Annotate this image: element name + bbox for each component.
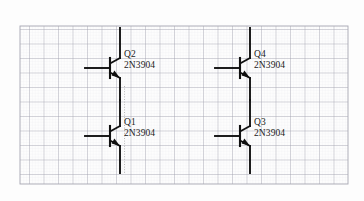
label-q1: Q1 2N3904 [124, 117, 155, 138]
label-q2-ref: Q2 [124, 49, 155, 60]
label-q3: Q3 2N3904 [254, 117, 285, 138]
label-q3-ref: Q3 [254, 117, 285, 128]
transistor-q3[interactable] [215, 100, 250, 173]
transistor-q1[interactable] [85, 100, 120, 173]
label-q4-ref: Q4 [254, 49, 285, 60]
q2-emitter-arrow [112, 70, 120, 78]
q3-emitter-arrow [242, 138, 250, 146]
label-q2-part: 2N3904 [124, 60, 155, 71]
label-q4-part: 2N3904 [254, 60, 285, 71]
label-q1-ref: Q1 [124, 117, 155, 128]
circuit-layer [0, 0, 364, 201]
label-q1-part: 2N3904 [124, 128, 155, 139]
q3-collector-lead [240, 126, 250, 132]
transistor-q2[interactable] [85, 28, 120, 100]
schematic-canvas: Q2 2N3904 Q1 2N3904 Q4 2N3904 Q3 2N3904 [0, 0, 364, 201]
q4-collector-lead [240, 58, 250, 64]
transistor-q4[interactable] [215, 28, 250, 100]
q1-emitter-arrow [112, 138, 120, 146]
label-q3-part: 2N3904 [254, 128, 285, 139]
q1-collector-lead [110, 126, 120, 132]
q2-collector-lead [110, 58, 120, 64]
label-q2: Q2 2N3904 [124, 49, 155, 70]
label-q4: Q4 2N3904 [254, 49, 285, 70]
q4-emitter-arrow [242, 70, 250, 78]
